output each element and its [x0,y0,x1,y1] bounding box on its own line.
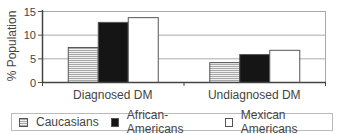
y-tick-label: 5 [30,53,36,65]
legend-label: Caucasians [36,115,99,129]
legend-label: Mexican Americans [241,108,332,134]
legend-label: African-Americans [127,108,213,134]
legend-item-african-americans: African-Americans [111,108,213,134]
bar-african-americans [98,22,128,82]
legend-item-caucasians: Caucasians [19,115,99,129]
bar-mexican-americans [270,50,300,82]
y-axis-label: % Population [5,11,19,82]
legend-item-mexican-americans: Mexican Americans [225,108,332,134]
bar-african-americans [240,55,270,83]
y-tick-label: 10 [24,29,36,41]
x-category-label: Undiagnosed DM [208,88,301,102]
x-category-label: Diagnosed DM [73,88,152,102]
bar-mexican-americans [128,18,158,83]
y-axis-label-container: % Population [2,10,22,82]
y-tick-label: 15 [24,6,36,18]
bar-caucasians [68,47,98,82]
striped-swatch-icon [19,118,28,127]
white-swatch-icon [225,118,233,127]
black-swatch-icon [111,118,119,127]
y-tick-label: 0 [30,77,36,89]
bar-caucasians [210,63,240,83]
legend: Caucasians African-Americans Mexican Ame… [11,113,333,131]
